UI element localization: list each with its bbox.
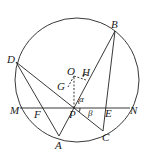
angle-beta-arc (79, 108, 80, 112)
label-f: F (33, 108, 41, 120)
label-o: O (67, 65, 75, 77)
chord-da (16, 62, 59, 136)
label-p: P (68, 108, 76, 120)
label-b: B (111, 18, 118, 30)
label-e: E (104, 107, 112, 119)
label-h: H (81, 66, 91, 78)
label-m: M (9, 104, 20, 116)
circle (15, 18, 139, 142)
chord-ab (59, 31, 115, 136)
label-g: G (57, 80, 65, 92)
segment-og (68, 76, 74, 87)
label-n: N (129, 104, 138, 116)
label-beta: β (87, 108, 93, 118)
geometry-diagram: B D O H G α M F P β E N A C (0, 0, 151, 155)
label-a: A (54, 139, 62, 151)
label-c: C (102, 131, 110, 143)
label-alpha: α (79, 94, 84, 104)
label-d: D (6, 53, 15, 65)
